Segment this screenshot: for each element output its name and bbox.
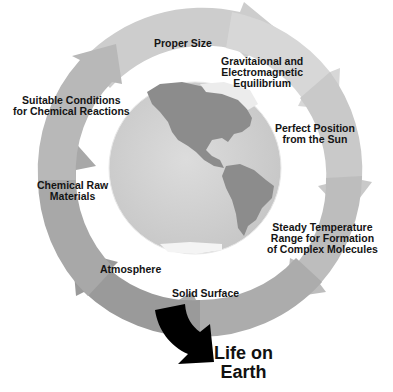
label-raw-materials: Chemical Raw Materials	[37, 180, 108, 202]
globe-americas-icon	[109, 82, 281, 254]
outcome-label: Life on Earth	[214, 344, 273, 382]
label-proper-size: Proper Size	[154, 38, 212, 49]
label-position: Perfect Position from the Sun	[275, 123, 355, 145]
label-temperature: Steady Temperature Range for Formation o…	[267, 222, 378, 255]
label-equilibrium: Gravitaional and Electromagnetic Equilib…	[221, 56, 303, 89]
label-conditions: Suitable Conditions for Chemical Reactio…	[13, 95, 130, 117]
label-atmosphere: Atmosphere	[100, 264, 161, 275]
label-solid-surface: Solid Surface	[172, 288, 239, 299]
